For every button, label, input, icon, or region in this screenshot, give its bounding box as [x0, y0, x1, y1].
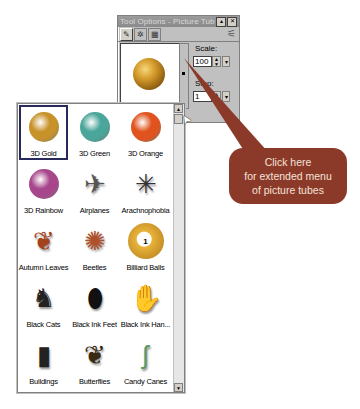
- title-bar[interactable]: Tool Options - Picture Tube ▴ ✕: [118, 16, 239, 27]
- arachnophobia-icon: ✳: [135, 169, 157, 200]
- tube-preview[interactable]: [120, 43, 180, 109]
- callout-line-1: Click here: [229, 155, 347, 169]
- tube-thumbnail: [72, 107, 118, 147]
- picture-tube-icon: ✎: [123, 30, 130, 39]
- sphere-icon: [29, 112, 59, 142]
- tube-item[interactable]: 1Billiard Balls: [120, 218, 171, 275]
- tube-item[interactable]: 3D Rainbow: [18, 161, 69, 218]
- step-spin-arrows[interactable]: ▲▼: [212, 91, 221, 102]
- callout-line-2: for extended menu: [229, 169, 347, 183]
- arrow-up-icon: ▲: [176, 106, 181, 112]
- scale-label: Scale:: [195, 44, 217, 53]
- tube-thumbnail: ✺: [72, 221, 118, 261]
- tube-label: Butterflies: [79, 377, 110, 386]
- tab-bar: ✎ ✲ ▦ ⚟: [118, 27, 239, 42]
- tube-item[interactable]: ❦Autumn Leaves: [18, 218, 69, 275]
- scroll-down-button[interactable]: ▼: [174, 383, 183, 392]
- tube-item[interactable]: ✋Black Ink Han...: [120, 275, 171, 332]
- image-icon: ▦: [151, 30, 159, 39]
- step-dropdown-button[interactable]: ▾: [222, 91, 230, 102]
- tube-thumbnail: ▮: [21, 335, 67, 375]
- scale-spin-arrows[interactable]: ▲▼: [212, 56, 221, 67]
- tube-label: Candy Canes: [124, 377, 167, 386]
- sphere-icon: [80, 112, 110, 142]
- sphere-icon: [29, 169, 59, 199]
- scroll-up-button[interactable]: ▲: [174, 104, 183, 113]
- tube-label: Black Ink Han...: [121, 320, 170, 329]
- panel-scrollbar[interactable]: ▲ ▼: [173, 104, 184, 392]
- tube-thumbnail: ❦: [72, 335, 118, 375]
- tube-item[interactable]: ✺Beetles: [69, 218, 120, 275]
- buildings-icon: ▮: [37, 340, 51, 371]
- tab-options[interactable]: ✲: [134, 28, 147, 41]
- menu-dot-icon: [182, 72, 185, 75]
- tube-item[interactable]: 3D Orange: [120, 104, 171, 161]
- window-title: Tool Options - Picture Tube: [120, 17, 215, 26]
- tube-label: 3D Green: [79, 149, 110, 158]
- black-ink-han-icon: ✋: [130, 283, 162, 314]
- tube-thumbnail: ❦: [21, 221, 67, 261]
- tube-label: 3D Rainbow: [24, 206, 63, 215]
- tube-label: 3D Gold: [30, 149, 56, 158]
- tube-thumbnail: ✳: [123, 164, 169, 204]
- tab-picture-tube[interactable]: ✎: [120, 28, 133, 41]
- chevron-down-icon: ▾: [225, 94, 228, 100]
- scale-input[interactable]: 100: [193, 56, 212, 67]
- tube-label: 3D Orange: [128, 149, 163, 158]
- tube-item[interactable]: 3D Green: [69, 104, 120, 161]
- tube-thumbnail: ♞: [21, 278, 67, 318]
- tube-label: Billiard Balls: [126, 263, 164, 272]
- close-icon[interactable]: ✕: [227, 17, 237, 27]
- tube-label: Black Cats: [27, 320, 61, 329]
- tube-item[interactable]: ✈Airplanes: [69, 161, 120, 218]
- tube-item[interactable]: ʃCandy Canes: [120, 332, 171, 389]
- gold-sphere-preview: [133, 58, 165, 90]
- scale-dropdown-button[interactable]: ▾: [222, 56, 230, 67]
- step-spinner: 1 ▲▼ ▾: [193, 91, 230, 102]
- step-input[interactable]: 1: [193, 91, 212, 102]
- pin-icon[interactable]: ⚟: [227, 28, 236, 39]
- tube-item[interactable]: ✳Arachnophobia: [120, 161, 171, 218]
- black-cats-icon: ♞: [32, 283, 55, 314]
- autumn-leaves-icon: ❦: [33, 226, 55, 257]
- sphere-icon: [131, 112, 161, 142]
- candy-canes-icon: ʃ: [143, 340, 149, 371]
- tube-thumbnail: 1: [123, 221, 169, 261]
- scale-spinner: 100 ▲▼ ▾: [193, 56, 230, 67]
- tube-thumbnail: [21, 164, 67, 204]
- tube-label: Beetles: [83, 263, 107, 272]
- tube-item[interactable]: 3D Gold: [18, 104, 69, 161]
- tube-label: Airplanes: [80, 206, 109, 215]
- butterflies-icon: ❦: [84, 340, 106, 371]
- chevron-down-icon: ▾: [225, 59, 228, 65]
- callout-box: Click here for extended menu of picture …: [229, 148, 347, 204]
- tube-item[interactable]: ▮Buildings: [18, 332, 69, 389]
- tube-label: Arachnophobia: [122, 206, 170, 215]
- callout-line-3: of picture tubes: [229, 183, 347, 197]
- tube-thumbnail: ʃ: [123, 335, 169, 375]
- airplanes-icon: ✈: [84, 169, 106, 200]
- tube-item[interactable]: ❦Butterflies: [69, 332, 120, 389]
- tube-label: Autumn Leaves: [19, 263, 69, 272]
- tube-thumbnail: ⬮: [72, 278, 118, 318]
- extended-menu-button[interactable]: [179, 43, 189, 109]
- tube-label: Black Ink Feet: [72, 320, 117, 329]
- billiard-ball-icon: 1: [128, 223, 164, 259]
- tube-thumbnail: [21, 107, 67, 147]
- tube-label: Buildings: [29, 377, 58, 386]
- picture-tubes-panel: 3D Gold3D Green3D Orange3D Rainbow✈Airpl…: [17, 103, 185, 393]
- options-icon: ✲: [137, 30, 144, 39]
- tube-thumbnail: [123, 107, 169, 147]
- tube-thumbnail: ✈: [72, 164, 118, 204]
- minimize-icon[interactable]: ▴: [216, 17, 226, 27]
- tab-image[interactable]: ▦: [148, 28, 161, 41]
- step-label: Step:: [195, 79, 214, 88]
- beetles-icon: ✺: [84, 226, 106, 257]
- tube-thumbnail: ✋: [123, 278, 169, 318]
- tube-item[interactable]: ⬮Black Ink Feet: [69, 275, 120, 332]
- tubes-grid: 3D Gold3D Green3D Orange3D Rainbow✈Airpl…: [18, 104, 172, 389]
- black-ink-feet-icon: ⬮: [87, 283, 103, 314]
- tube-item[interactable]: ♞Black Cats: [18, 275, 69, 332]
- spin-down-icon: ▼: [214, 96, 219, 102]
- arrow-down-icon: ▼: [176, 385, 181, 391]
